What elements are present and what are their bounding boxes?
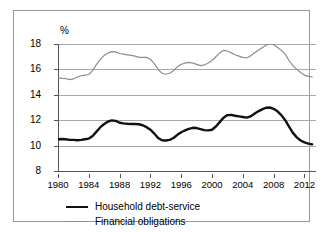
y-tick-label: 10 [17,140,41,151]
x-tick [274,174,275,178]
chart-figure: % 81012141618 19801984198819921996200020… [0,0,323,232]
x-tick-label: 2008 [258,179,290,190]
legend-item-financial-obligations: Financial obligations [66,214,200,229]
x-axis-tick-labels: 198019841988199219962000200420082012 [58,174,316,190]
x-tick-label: 1992 [134,179,166,190]
x-tick [304,174,305,178]
x-axis-line [58,171,316,172]
legend-item-household-debt-service: Household debt-service [66,199,200,214]
series-lines [58,44,316,171]
x-tick-label: 1988 [104,179,136,190]
chart-frame: % 81012141618 19801984198819921996200020… [13,10,310,222]
x-tick [89,174,90,178]
x-tick-label: 1984 [73,179,105,190]
y-tick-label: 14 [17,89,41,100]
chart-legend: Household debt-service Financial obligat… [66,199,200,229]
y-tick-label: 16 [17,63,41,74]
x-tick [150,174,151,178]
x-tick-label: 1996 [165,179,197,190]
x-tick [212,174,213,178]
x-tick [120,174,121,178]
x-tick-label: 2000 [196,179,228,190]
legend-swatch-thin-line [66,221,88,222]
y-tick-label: 12 [17,114,41,125]
line-financial-obligations [58,44,312,80]
x-tick-label: 1980 [42,179,74,190]
x-tick-label: 2004 [227,179,259,190]
x-tick-label: 2012 [288,179,320,190]
legend-label: Household debt-service [95,201,200,212]
y-axis-unit-label: % [60,25,69,36]
y-tick-label: 18 [17,38,41,49]
x-tick [181,174,182,178]
line-household-debt-service [58,108,312,145]
x-tick [243,174,244,178]
legend-label: Financial obligations [95,216,186,227]
x-tick [58,174,59,178]
legend-swatch-thick-line [66,206,88,208]
y-tick-label: 8 [17,165,41,176]
